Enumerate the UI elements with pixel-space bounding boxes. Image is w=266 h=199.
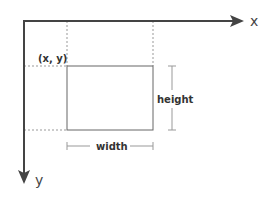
origin-label: (x, y)	[38, 53, 67, 64]
coordinate-diagram: x y (x, y) width height	[0, 0, 266, 199]
y-axis-label: y	[35, 172, 43, 188]
width-label: width	[96, 141, 128, 152]
x-axis-label: x	[250, 13, 258, 29]
rectangle	[67, 66, 153, 130]
height-label: height	[157, 94, 194, 105]
